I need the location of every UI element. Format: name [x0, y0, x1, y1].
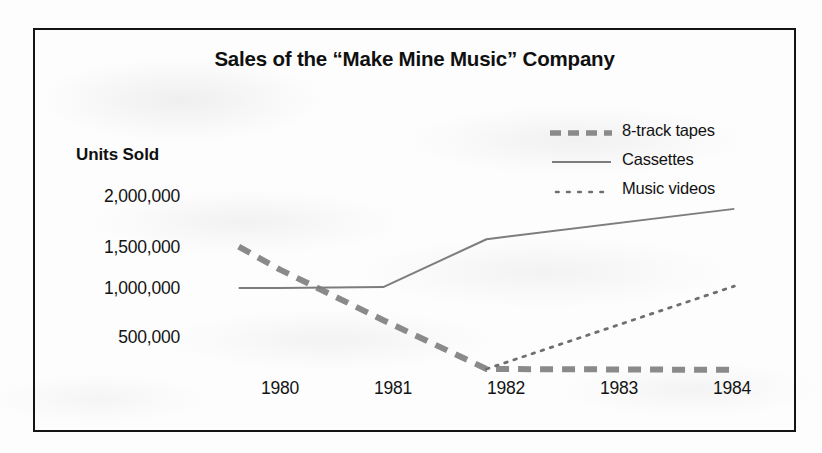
legend-label: Cassettes [622, 150, 694, 169]
chart-legend: 8-track tapes Cassettes Music videos [548, 118, 788, 205]
solid-line-icon [548, 147, 614, 176]
series-line-8-track-tapes [239, 247, 735, 370]
plot-area [0, 0, 822, 453]
legend-label: Music videos [622, 179, 715, 198]
dotted-line-icon [548, 176, 614, 205]
legend-label: 8-track tapes [622, 121, 715, 140]
chart-screenshot: Sales of the “Make Mine Music” Company U… [0, 0, 822, 453]
legend-item-cassettes[interactable]: Cassettes [548, 147, 788, 176]
legend-item-music-videos[interactable]: Music videos [548, 176, 788, 205]
series-line-music-videos [487, 286, 735, 369]
dashed-line-icon [548, 118, 614, 147]
series-line-cassettes [239, 209, 735, 288]
legend-item-8-track-tapes[interactable]: 8-track tapes [548, 118, 788, 147]
